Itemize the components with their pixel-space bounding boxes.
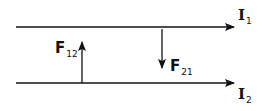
force-label-f21: F21	[170, 58, 193, 74]
current-label-i1: I1	[238, 7, 252, 23]
parallel-wires-diagram: I1 I2 F12 F21	[0, 0, 264, 111]
force-label-f12: F12	[55, 40, 78, 56]
current-label-i2: I2	[238, 86, 252, 102]
diagram-graphics	[0, 0, 264, 111]
